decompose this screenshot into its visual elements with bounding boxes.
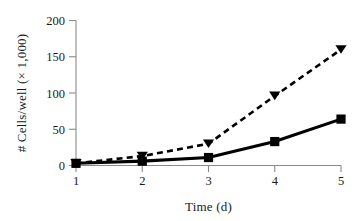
- y-tick-label-0: 0: [59, 159, 65, 173]
- chart-figure: 200 150 100 50 0 1 2 3 4 5 # Cells/well …: [0, 0, 361, 221]
- x-tick-label-4: 4: [272, 174, 279, 188]
- y-tick-label-150: 150: [46, 50, 65, 64]
- x-axis-title: Time (d): [185, 199, 232, 214]
- x-tick-label-5: 5: [338, 174, 344, 188]
- x-tick-label-1: 1: [73, 174, 79, 188]
- line-chart: 200 150 100 50 0 1 2 3 4 5 # Cells/well …: [0, 0, 361, 221]
- data-point-square-4: [270, 137, 279, 146]
- x-tick-label-3: 3: [205, 174, 211, 188]
- chart-background: [0, 0, 361, 221]
- y-axis-title: # Cells/well (× 1,000): [14, 34, 29, 153]
- y-tick-label-100: 100: [46, 87, 65, 101]
- y-tick-label-200: 200: [46, 14, 65, 28]
- x-tick-label-2: 2: [139, 174, 145, 188]
- y-tick-label-50: 50: [53, 123, 66, 137]
- data-point-square-5: [336, 115, 345, 124]
- data-point-square-3: [204, 153, 213, 162]
